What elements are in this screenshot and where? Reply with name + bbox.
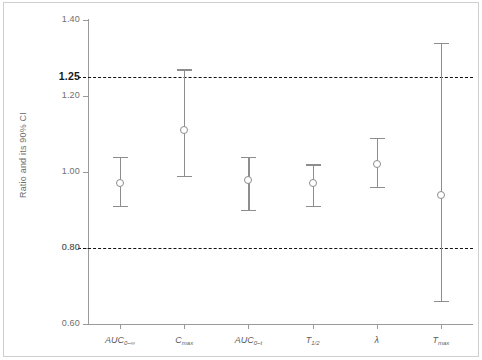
plot-area: Ratio and its 90% CI 0.600.801.001.201.4… [0, 0, 482, 360]
errorbar-upper-cap [241, 157, 256, 158]
reference-line-1-25 [78, 77, 473, 78]
y-axis-tick-label: 1.20 [20, 90, 80, 100]
x-axis-tick-label-tmax: Tmax [401, 335, 481, 345]
y-axis-tick [83, 324, 88, 325]
y-axis-tick [83, 172, 88, 173]
errorbar-lower-cap [370, 187, 385, 188]
x-axis-line [88, 324, 473, 325]
x-axis-tick [120, 324, 121, 329]
y-axis-tick-label: 0.60 [20, 318, 80, 328]
y-axis-tick-label: 1.40 [20, 14, 80, 24]
errorbar-upper-cap [370, 138, 385, 139]
data-point-marker [244, 176, 252, 184]
x-axis-tick [248, 324, 249, 329]
data-point-marker [373, 160, 381, 168]
data-point-marker [180, 126, 188, 134]
y-axis-tick [83, 96, 88, 97]
errorbar-upper-cap [434, 43, 449, 44]
errorbar-upper-cap [113, 157, 128, 158]
errorbar-upper-cap [306, 164, 321, 165]
errorbar-lower-cap [434, 301, 449, 302]
x-axis-tick [184, 324, 185, 329]
errorbar-lower-cap [113, 206, 128, 207]
data-point-marker [116, 179, 124, 187]
errorbar-lower-cap [306, 206, 321, 207]
errorbar-upper-cap [177, 69, 192, 70]
y-axis-line [88, 19, 89, 325]
errorbar-stem [441, 43, 442, 301]
errorbar-lower-cap [241, 210, 256, 211]
reference-line-label-0-80: 0.80 [20, 242, 80, 252]
y-axis-tick [83, 20, 88, 21]
y-axis-title: Ratio and its 90% CI [18, 85, 28, 225]
x-axis-tick [313, 324, 314, 329]
errorbar-lower-cap [177, 176, 192, 177]
x-axis-tick [441, 324, 442, 329]
data-point-marker [309, 179, 317, 187]
reference-line-0-80 [78, 248, 473, 249]
reference-line-label-1-25: 1.25 [20, 70, 80, 82]
x-axis-tick [377, 324, 378, 329]
data-point-marker [437, 191, 445, 199]
errorbar-stem [184, 69, 185, 175]
y-axis-tick-label: 1.00 [20, 166, 80, 176]
figure-panel: Ratio and its 90% CI 0.600.801.001.201.4… [0, 0, 482, 360]
